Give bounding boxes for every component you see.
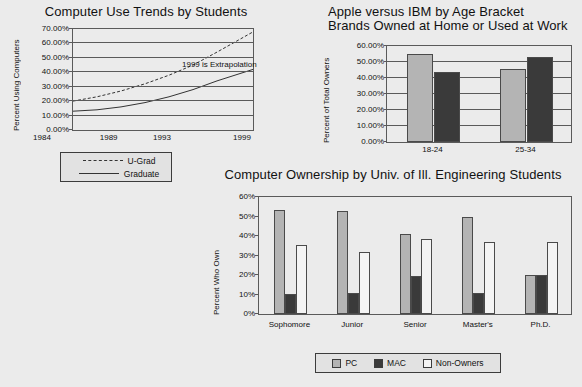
chart2-plot-area bbox=[386, 45, 572, 143]
bar-mac-sophomore bbox=[285, 294, 296, 314]
chart1-annotation: 1999 is Extrapolation bbox=[182, 60, 257, 69]
y-tick-label: 30% bbox=[239, 250, 255, 259]
y-tick-label: 30.00% bbox=[357, 89, 384, 98]
bar-mac-junior bbox=[348, 293, 359, 314]
bar-pc-master-s bbox=[462, 217, 473, 314]
legend-item-graduate: Graduate bbox=[73, 167, 159, 180]
chart-computer-ownership-engineering: Computer Ownership by Univ. of Ill. Engi… bbox=[200, 165, 582, 387]
y-tick-label: 50.00% bbox=[42, 52, 69, 61]
y-tick-label: 20.00% bbox=[42, 96, 69, 105]
y-tick-label: 60% bbox=[239, 192, 255, 201]
bar-ibm-18-24 bbox=[434, 72, 460, 142]
chart2-title-line1: Apple versus IBM by Age Bracket bbox=[328, 5, 580, 19]
legend-label-mac: MAC bbox=[387, 358, 406, 368]
x-tick-label: 1999 bbox=[226, 133, 258, 142]
bar-pc-sophomore bbox=[274, 210, 285, 314]
legend-label-u-grad: U-Grad bbox=[128, 156, 156, 166]
legend-label-graduate: Graduate bbox=[124, 169, 159, 179]
y-tick-label: 50% bbox=[239, 211, 255, 220]
x-tick-label: 25-34 bbox=[479, 145, 572, 154]
chart2-y-ticks: 0.00%10.00%20.00%30.00%40.00%50.00%60.00… bbox=[332, 45, 384, 143]
chart1-x-ticks: 1984198919931999 bbox=[42, 133, 282, 145]
legend-item-non-owners: Non-Owners bbox=[423, 358, 484, 368]
bar-pc-ph-d- bbox=[525, 275, 536, 314]
chart1-title: Computer Use Trends by Students bbox=[12, 5, 280, 19]
y-tick-label: 10.00% bbox=[42, 110, 69, 119]
mac-swatch-icon bbox=[374, 359, 383, 368]
dashed-line-icon bbox=[83, 160, 123, 161]
bar-pc-junior bbox=[337, 211, 348, 314]
solid-line-icon bbox=[79, 173, 119, 174]
chart3-plot-area bbox=[258, 196, 572, 315]
y-tick-label: 20% bbox=[239, 270, 255, 279]
gridline bbox=[73, 86, 253, 87]
bar-mac-ph-d- bbox=[536, 275, 547, 314]
line-graduate bbox=[73, 69, 253, 111]
y-tick-label: 60.00% bbox=[42, 38, 69, 47]
x-tick-label: 1993 bbox=[146, 133, 178, 142]
chart1-y-ticks: 0.00%10.00%20.00%30.00%40.00%50.00%60.00… bbox=[20, 28, 69, 131]
y-tick-label: 60.00% bbox=[357, 41, 384, 50]
y-tick-label: 40.00% bbox=[42, 67, 69, 76]
legend-item-mac: MAC bbox=[374, 358, 406, 368]
legend-item-u-grad: U-Grad bbox=[77, 154, 156, 167]
chart1-legend: U-Grad Graduate bbox=[60, 152, 172, 182]
chart3-y-ticks: 0%10%20%30%40%50%60% bbox=[220, 196, 255, 315]
bar-pc-senior bbox=[400, 234, 411, 314]
chart1-plot-area bbox=[72, 28, 254, 131]
bar-non-owners-ph-d- bbox=[547, 242, 558, 314]
y-tick-label: 0.00% bbox=[361, 137, 384, 146]
chart3-title: Computer Ownership by Univ. of Ill. Engi… bbox=[206, 168, 580, 182]
gridline bbox=[73, 57, 253, 58]
bar-non-owners-senior bbox=[421, 239, 432, 314]
bar-non-owners-sophomore bbox=[296, 245, 307, 314]
chart-apple-versus-ibm: Apple versus IBM by Age Bracket Brands O… bbox=[310, 0, 582, 165]
x-tick-label: 1989 bbox=[93, 133, 125, 142]
pc-swatch-icon bbox=[332, 359, 341, 368]
y-tick-label: 70.00% bbox=[42, 24, 69, 33]
gridline bbox=[73, 115, 253, 116]
chart2-title-line2: Brands Owned at Home or Used at Work bbox=[328, 19, 580, 33]
chart2-x-ticks: 18-2425-34 bbox=[386, 145, 572, 157]
x-tick-label: 18-24 bbox=[386, 145, 479, 154]
legend-item-pc: PC bbox=[332, 358, 357, 368]
bar-non-owners-junior bbox=[359, 252, 370, 314]
chart-computer-use-trends: Computer Use Trends by Students Percent … bbox=[0, 0, 300, 190]
y-tick-label: 0% bbox=[243, 309, 255, 318]
x-tick-label: Senior bbox=[384, 320, 447, 329]
gridline bbox=[73, 42, 253, 43]
x-tick-label: 1984 bbox=[26, 133, 58, 142]
bar-mac-master-s bbox=[473, 293, 484, 314]
bar-apple-18-24 bbox=[407, 54, 433, 142]
x-tick-label: Junior bbox=[321, 320, 384, 329]
y-tick-label: 50.00% bbox=[357, 57, 384, 66]
bar-mac-senior bbox=[411, 276, 422, 314]
chart2-y-axis-label: Percent of Total Owners bbox=[322, 45, 331, 143]
y-tick-label: 40.00% bbox=[357, 73, 384, 82]
y-tick-label: 20.00% bbox=[357, 105, 384, 114]
chart3-x-ticks: SophomoreJuniorSeniorMaster'sPh.D. bbox=[258, 320, 572, 332]
bar-apple-25-34 bbox=[500, 69, 526, 142]
y-tick-label: 30.00% bbox=[42, 81, 69, 90]
x-tick-label: Master's bbox=[446, 320, 509, 329]
y-tick-label: 10.00% bbox=[357, 121, 384, 130]
chart3-legend: PC MAC Non-Owners bbox=[315, 353, 501, 373]
x-tick-label: Ph.D. bbox=[509, 320, 572, 329]
chart2-title: Apple versus IBM by Age Bracket Brands O… bbox=[314, 5, 580, 33]
bar-ibm-25-34 bbox=[527, 57, 553, 142]
legend-label-pc: PC bbox=[345, 358, 357, 368]
gridline bbox=[73, 71, 253, 72]
non-owners-swatch-icon bbox=[423, 359, 432, 368]
y-tick-label: 40% bbox=[239, 231, 255, 240]
gridline bbox=[73, 100, 253, 101]
bar-non-owners-master-s bbox=[484, 242, 495, 314]
y-tick-label: 10% bbox=[239, 289, 255, 298]
legend-label-non-owners: Non-Owners bbox=[436, 358, 484, 368]
x-tick-label: Sophomore bbox=[258, 320, 321, 329]
